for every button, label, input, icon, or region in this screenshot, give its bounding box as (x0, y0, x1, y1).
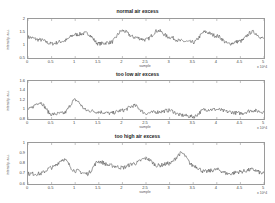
chart-title: too low air excess (0, 71, 275, 77)
x-tick-label: 4.5 (232, 59, 246, 64)
chart-title: normal air excess (0, 8, 275, 14)
x-tick-label: 1.5 (91, 59, 105, 64)
y-tick-label: 1.2 (11, 97, 25, 102)
plot-area (27, 80, 265, 120)
signal-line (28, 143, 264, 184)
x-tick-label: 5 (256, 185, 270, 190)
x-tick-label: 0.5 (44, 59, 58, 64)
y-tick-label: 2 (11, 16, 25, 21)
y-axis-label: intensity, a.u. (6, 154, 10, 174)
x-tick-label: 4.5 (232, 185, 246, 190)
x-tick-label: 4 (209, 120, 223, 125)
x-tick-label: 0.5 (44, 185, 58, 190)
y-axis-label: intensity, a.u. (6, 29, 10, 49)
x-multiplier: x 10^4 (257, 191, 267, 195)
y-tick-label: 0.9 (11, 150, 25, 155)
plot-area (27, 142, 265, 185)
x-axis-label: sample (125, 64, 165, 68)
chart-title: too high air excess (0, 133, 275, 139)
x-tick-label: 1.5 (91, 185, 105, 190)
x-tick-label: 1 (67, 185, 81, 190)
signal-line (28, 19, 264, 58)
x-tick-label: 1.5 (91, 120, 105, 125)
plot-area (27, 18, 265, 59)
x-tick-label: 1 (67, 120, 81, 125)
x-tick-label: 1 (67, 59, 81, 64)
x-axis-label: sample (125, 125, 165, 129)
y-tick-label: 0.7 (11, 170, 25, 175)
x-tick-label: 0.5 (44, 120, 58, 125)
x-tick-label: 3.5 (185, 120, 199, 125)
y-tick-label: 1.4 (11, 87, 25, 92)
x-tick-label: 3.5 (185, 185, 199, 190)
x-tick-label: 3.5 (185, 59, 199, 64)
x-multiplier: x 10^4 (257, 126, 267, 130)
signal-line (28, 81, 264, 119)
y-axis-label: intensity, a.u. (6, 91, 10, 111)
x-axis-label: sample (125, 190, 165, 194)
y-tick-label: 1 (11, 140, 25, 145)
y-tick-label: 0.8 (11, 160, 25, 165)
x-tick-label: 0 (20, 185, 34, 190)
x-tick-label: 5 (256, 59, 270, 64)
x-multiplier: x 10^4 (257, 65, 267, 69)
y-tick-label: 1 (11, 42, 25, 47)
x-tick-label: 4.5 (232, 120, 246, 125)
x-tick-label: 5 (256, 120, 270, 125)
y-tick-label: 1 (11, 106, 25, 111)
x-tick-label: 0 (20, 120, 34, 125)
y-tick-label: 1.5 (11, 29, 25, 34)
x-tick-label: 4 (209, 59, 223, 64)
x-tick-label: 4 (209, 185, 223, 190)
y-tick-label: 1.6 (11, 78, 25, 83)
x-tick-label: 0 (20, 59, 34, 64)
